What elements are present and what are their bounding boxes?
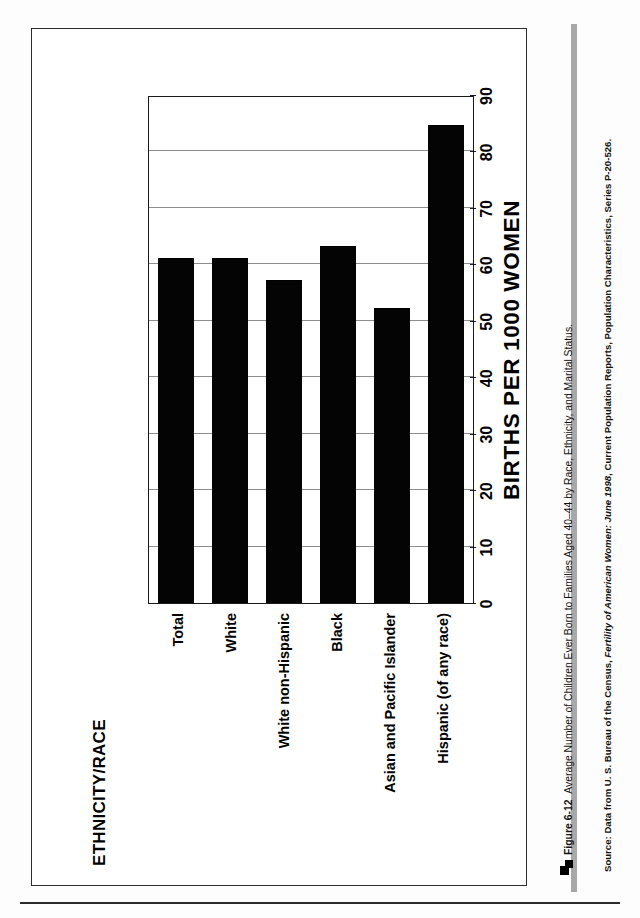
tick-mark	[470, 547, 476, 548]
tick-mark	[470, 377, 476, 378]
figure-number: Figure 6-12	[563, 800, 574, 855]
caption-column: Figure 6-12 Average Number of Children E…	[536, 0, 640, 918]
source-prefix: Source: Data from U. S. Bureau of the Ce…	[602, 658, 613, 872]
rotated-chart-canvas: ETHNICITY/RACE TotalWhiteWhite non-Hispa…	[44, 42, 514, 872]
category-label-list: TotalWhiteWhite non-HispanicBlackAsian a…	[152, 604, 470, 836]
bar-slot	[266, 97, 302, 603]
tick-label: 60	[478, 256, 496, 274]
tick-label: 30	[478, 426, 496, 444]
tick-mark	[470, 603, 476, 604]
caption-bullet-icon	[565, 860, 573, 868]
tick-label: 90	[478, 87, 496, 105]
bar	[428, 125, 464, 603]
tick-label: 50	[478, 313, 496, 331]
bar	[374, 309, 410, 604]
category-label: Hispanic (of any race)	[436, 604, 451, 836]
tick-label: 80	[478, 144, 496, 162]
plot-area	[148, 96, 474, 604]
tick-mark	[470, 95, 476, 96]
tick-label: 40	[478, 369, 496, 387]
source-title-italic: Fertility of American Women: June 1998	[602, 476, 613, 658]
category-label: White non-Hispanic	[277, 604, 292, 836]
x-axis-title: BIRTHS PER 1000 WOMEN	[499, 96, 525, 604]
category-label: Total	[171, 604, 186, 836]
figure-caption-text: Average Number of Children Ever Born to …	[563, 324, 574, 794]
bar	[320, 246, 356, 603]
bar-slot	[320, 97, 356, 603]
category-label: Black	[330, 604, 345, 836]
bar	[158, 258, 194, 603]
scanned-page: ETHNICITY/RACE TotalWhiteWhite non-Hispa…	[0, 0, 640, 918]
category-label: Asian and Pacific Islander	[383, 604, 398, 836]
bar-slot	[212, 97, 248, 603]
bar	[266, 280, 302, 603]
bar-series	[149, 97, 473, 603]
tick-mark	[470, 490, 476, 491]
source-suffix: , Current Population Reports, Population…	[602, 139, 613, 476]
tick-mark	[470, 151, 476, 152]
tick-mark	[470, 264, 476, 265]
tick-label: 10	[478, 539, 496, 557]
y-axis-title: ETHNICITY/RACE	[90, 636, 110, 866]
bar-slot	[158, 97, 194, 603]
figure-source: Source: Data from U. S. Bureau of the Ce…	[602, 139, 613, 872]
tick-label: 0	[478, 600, 496, 609]
category-label: White	[224, 604, 239, 836]
tick-mark	[470, 321, 476, 322]
page-bottom-rule	[20, 902, 620, 904]
bar	[212, 258, 248, 603]
tick-label: 70	[478, 200, 496, 218]
tick-mark	[470, 208, 476, 209]
bar-slot	[428, 97, 464, 603]
tick-label: 20	[478, 482, 496, 500]
figure-border-box: ETHNICITY/RACE TotalWhiteWhite non-Hispa…	[31, 28, 527, 886]
tick-mark	[470, 434, 476, 435]
figure-caption: Figure 6-12 Average Number of Children E…	[563, 324, 575, 868]
bar-slot	[374, 97, 410, 603]
plot-wrapper: ETHNICITY/RACE TotalWhiteWhite non-Hispa…	[44, 42, 514, 872]
